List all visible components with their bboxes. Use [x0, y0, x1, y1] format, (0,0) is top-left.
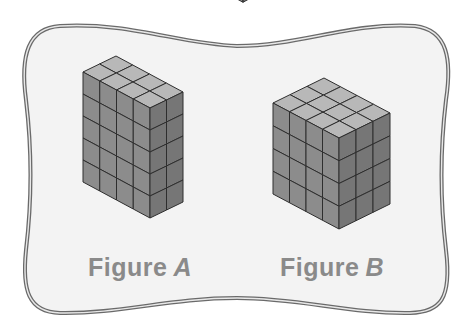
figure-a-variable: A: [173, 253, 192, 281]
figure-b-variable: B: [365, 253, 384, 281]
figure-b-label: FigureB: [280, 253, 384, 282]
figure-a-label: FigureA: [88, 253, 192, 282]
partial-cube-right-face: [243, 0, 254, 2]
figures-diagram: [0, 0, 475, 333]
partial-cube-left-face: [232, 0, 243, 2]
figure-b-label-text: Figure: [280, 253, 359, 281]
partial-cube-top: [232, 0, 254, 2]
figure-a-label-text: Figure: [88, 253, 167, 281]
